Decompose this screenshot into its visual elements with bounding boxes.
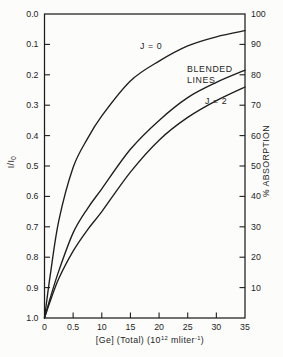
y-left-tick-label: 0.0	[26, 9, 38, 19]
x-tick-label: 35	[240, 322, 250, 332]
y-left-tick-label: 0.9	[26, 283, 38, 293]
plot-frame-rect	[45, 14, 246, 318]
y-left-tick-label: 0.5	[26, 161, 38, 171]
x-tick-label: 20	[154, 322, 164, 332]
y-right-tick-label: 100	[251, 9, 266, 19]
absorption-figure: 0.00.10.20.30.40.50.60.70.80.91.01009080…	[0, 0, 283, 357]
y-right-tick-label: 60	[251, 131, 261, 141]
y-right-tick-label: 90	[251, 39, 261, 49]
x-axis-title: [Ge] (Total) (1012 mliter-1)	[96, 335, 204, 345]
x-tick-label: 15	[126, 322, 136, 332]
curve-label-j-2: J = 2	[205, 96, 227, 106]
curve-blended-lines	[45, 70, 246, 318]
absorption-chart: 0.00.10.20.30.40.50.60.70.80.91.01009080…	[0, 0, 283, 357]
y-right-tick-label: 40	[251, 191, 261, 201]
y-right-tick-label: 80	[251, 70, 261, 80]
y-right-tick-label: 10	[251, 283, 261, 293]
y-left-tick-label: 0.4	[26, 131, 38, 141]
y-left-tick-label: 0.3	[26, 100, 38, 110]
curve-label-lines: LINES	[187, 75, 215, 85]
y-left-tick-label: 0.1	[26, 39, 38, 49]
curve-j-2	[45, 87, 246, 318]
y-left-tick-label: 0.8	[26, 252, 38, 262]
x-tick-label: 30	[211, 322, 221, 332]
y-left-axis-title: I/I0	[6, 156, 17, 169]
curve-label-j-0: J = 0	[140, 41, 162, 51]
plot-frame	[45, 14, 246, 318]
x-tick-label: 10	[97, 322, 107, 332]
curve-label-blended: BLENDED	[187, 64, 233, 74]
y-right-axis-title: % ABSORPTION	[261, 125, 271, 197]
y-left-tick-label: 1.0	[26, 313, 38, 323]
y-right-tick-label: 50	[251, 161, 261, 171]
axis-ticks	[45, 44, 246, 318]
y-left-tick-label: 0.6	[26, 191, 38, 201]
y-right-tick-label: 70	[251, 100, 261, 110]
x-tick-label: 25	[183, 322, 193, 332]
y-left-tick-label: 0.7	[26, 222, 38, 232]
y-right-tick-label: 20	[251, 252, 261, 262]
y-left-tick-label: 0.2	[26, 70, 38, 80]
tick-labels: 0.00.10.20.30.40.50.60.70.80.91.01009080…	[26, 9, 266, 332]
curve-labels: J = 0BLENDEDLINESJ = 2	[140, 41, 233, 106]
y-right-tick-label: 30	[251, 222, 261, 232]
x-tick-label: 0	[42, 322, 47, 332]
x-tick-label: 0.5	[67, 322, 79, 332]
